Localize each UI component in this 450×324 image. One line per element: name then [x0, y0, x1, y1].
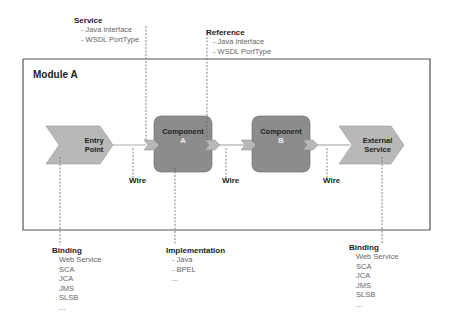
entry-point-line2: Point	[74, 145, 114, 154]
wire-label-1: Wire	[129, 176, 146, 185]
external-service-line2: Service	[355, 145, 400, 154]
binding-item: JMS	[59, 284, 101, 294]
binding-item: ...	[59, 303, 101, 313]
implementation-annotation: Implementation - Java - BPEL ...	[166, 246, 225, 284]
binding-right-annotation: Binding Web Service SCA JCA JMS SLSB ...	[349, 243, 398, 309]
component-b-line2: B	[252, 136, 310, 145]
binding-item: SLSB	[356, 290, 398, 300]
component-b-label: Component B	[252, 127, 310, 145]
reference-item: - Java interface	[206, 37, 271, 47]
binding-left-annotation: Binding Web Service SCA JCA JMS SLSB ...	[52, 246, 101, 312]
entry-point-label: Entry Point	[74, 136, 114, 154]
reference-item: - WSDL PortType	[206, 47, 271, 57]
module-title: Module A	[33, 69, 78, 80]
implementation-item: - Java	[172, 255, 225, 265]
binding-item: Web Service	[356, 252, 398, 262]
external-service-label: External Service	[355, 136, 400, 154]
binding-item: SCA	[59, 265, 101, 275]
binding-item: Web Service	[59, 255, 101, 265]
implementation-item: - BPEL	[172, 265, 225, 275]
service-item: - Java interface	[74, 25, 139, 35]
binding-left-title: Binding	[52, 246, 101, 255]
wire-label-2: Wire	[222, 176, 239, 185]
reference-title: Reference	[206, 28, 271, 37]
entry-point-line1: Entry	[74, 136, 114, 145]
component-a-line1: Component	[154, 127, 212, 136]
service-title: Service	[74, 16, 139, 25]
binding-right-title: Binding	[349, 243, 398, 252]
binding-item: JMS	[356, 281, 398, 291]
binding-item: SLSB	[59, 293, 101, 303]
external-service-line1: External	[355, 136, 400, 145]
component-b-line1: Component	[252, 127, 310, 136]
binding-item: SCA	[356, 262, 398, 272]
reference-annotation: Reference - Java interface - WSDL PortTy…	[206, 28, 271, 56]
binding-item: ...	[356, 300, 398, 310]
component-a-label: Component A	[154, 127, 212, 145]
service-annotation: Service - Java interface - WSDL PortType	[74, 16, 139, 44]
implementation-title: Implementation	[166, 246, 225, 255]
component-a-line2: A	[154, 136, 212, 145]
binding-item: JCA	[59, 274, 101, 284]
service-item: - WSDL PortType	[74, 35, 139, 45]
wire-label-3: Wire	[323, 176, 340, 185]
binding-item: JCA	[356, 271, 398, 281]
implementation-item: ...	[172, 274, 225, 284]
